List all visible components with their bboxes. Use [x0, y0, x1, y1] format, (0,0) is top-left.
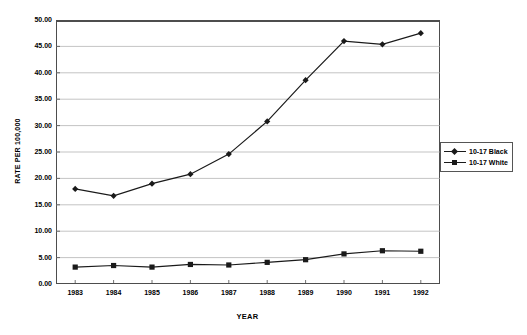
data-point-marker: [265, 260, 270, 265]
legend-item-white[interactable]: 10-17 White: [444, 157, 508, 168]
legend-label-black: 10-17 Black: [466, 148, 508, 155]
data-point-marker: [188, 262, 193, 267]
data-point-marker: [111, 193, 117, 199]
y-tick-label: 30.00: [18, 122, 52, 130]
y-tick-label: 45.00: [18, 42, 52, 50]
x-tick-label: 1983: [55, 289, 95, 296]
x-tick-label: 1984: [94, 289, 134, 296]
data-point-marker: [187, 171, 193, 177]
y-tick-label: 20.00: [18, 174, 52, 182]
data-point-marker: [73, 265, 78, 270]
data-point-marker: [303, 257, 308, 262]
y-tick-label: 5.00: [18, 254, 52, 262]
legend-item-black[interactable]: 10-17 Black: [444, 146, 508, 157]
x-tick-label: 1991: [362, 289, 402, 296]
plot-svg: [56, 20, 440, 284]
legend-marker-square-icon: [444, 157, 466, 168]
x-tick-label: 1990: [324, 289, 364, 296]
data-point-marker: [418, 249, 423, 254]
series-line-1: [75, 33, 421, 196]
y-tick-label: 10.00: [18, 227, 52, 235]
data-point-marker: [341, 251, 346, 256]
y-tick-label: 35.00: [18, 95, 52, 103]
x-tick-label: 1992: [401, 289, 441, 296]
x-tick-label: 1986: [170, 289, 210, 296]
x-tick-label: 1985: [132, 289, 172, 296]
y-tick-label: 25.00: [18, 148, 52, 156]
y-tick-label: 40.00: [18, 69, 52, 77]
series-line-2: [75, 251, 421, 267]
x-axis-title: YEAR: [55, 312, 440, 321]
legend-marker-diamond-icon: [444, 146, 466, 157]
y-tick-label: 50.00: [18, 16, 52, 24]
x-tick-label: 1989: [286, 289, 326, 296]
chart-legend: 10-17 Black 10-17 White: [440, 142, 513, 172]
x-tick-label: 1988: [247, 289, 287, 296]
line-chart: RATE PER 100,000 0.005.0010.0015.0020.00…: [0, 0, 527, 335]
data-point-marker: [111, 263, 116, 268]
data-point-marker: [380, 248, 385, 253]
x-tick-label: 1987: [209, 289, 249, 296]
legend-label-white: 10-17 White: [466, 159, 508, 166]
y-tick-label: 15.00: [18, 201, 52, 209]
data-point-marker: [226, 262, 231, 267]
data-point-marker: [149, 181, 155, 187]
data-point-marker: [149, 265, 154, 270]
data-point-marker: [418, 30, 424, 36]
y-tick-label: 0.00: [18, 280, 52, 288]
data-point-marker: [72, 186, 78, 192]
